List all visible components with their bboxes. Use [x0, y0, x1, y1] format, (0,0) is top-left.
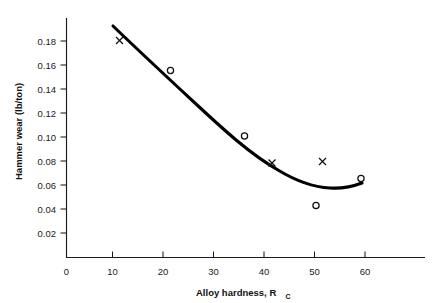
data-point-circle-2: [241, 133, 247, 139]
y-tick-label-0.04: 0.04: [38, 204, 57, 215]
scatter-plot: 0.18 0.16 0.14 0.12 0.10 0.08 0.06 0.04 …: [0, 0, 433, 303]
x-tick-label-30: 30: [208, 266, 219, 277]
x-axis-ticks: 0 10 20 30 40 50 60: [64, 252, 370, 278]
y-axis-ticks: 0.18 0.16 0.14 0.12 0.10 0.08 0.06 0.04 …: [38, 36, 67, 239]
data-point-circle-4: [358, 175, 364, 181]
x-tick-label-60: 60: [360, 266, 371, 277]
y-tick-label-0.08: 0.08: [38, 156, 57, 167]
y-tick-label-0.06: 0.06: [38, 180, 57, 191]
chart-figure: 0.18 0.16 0.14 0.12 0.10 0.08 0.06 0.04 …: [0, 0, 433, 303]
x-tick-label-0: 0: [64, 266, 69, 277]
data-point-circle-1: [167, 67, 173, 73]
y-tick-label-0.02: 0.02: [38, 228, 57, 239]
y-tick-label-0.18: 0.18: [38, 36, 57, 47]
y-axis-title: Hammer wear (lb/ton): [13, 83, 24, 180]
y-tick-label-0.12: 0.12: [38, 108, 57, 119]
x-axis-title-subscript: C: [286, 293, 291, 300]
y-tick-label-0.14: 0.14: [38, 84, 57, 95]
x-tick-label-10: 10: [107, 266, 118, 277]
x-tick-label-50: 50: [309, 266, 320, 277]
cross-markers: [116, 37, 326, 167]
y-tick-label-0.16: 0.16: [38, 60, 57, 71]
data-point-cross-1: [116, 37, 123, 44]
x-axis-title-main: Alloy hardness, R: [196, 287, 276, 298]
x-axis-title: Alloy hardness, R C: [196, 287, 291, 300]
y-tick-label-0.10: 0.10: [38, 132, 57, 143]
x-tick-label-20: 20: [158, 266, 169, 277]
x-tick-label-40: 40: [259, 266, 270, 277]
data-point-cross-3: [319, 158, 326, 165]
data-point-circle-3: [313, 202, 319, 208]
